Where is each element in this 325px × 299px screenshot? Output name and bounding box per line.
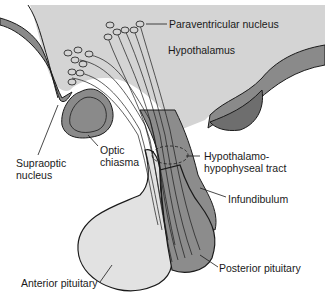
supraoptic-label-line1: Supraoptic — [16, 157, 66, 169]
paraventricular-nucleus-label: Paraventricular nucleus — [169, 18, 279, 30]
optic-chiasma-label-line2: chiasma — [100, 156, 139, 168]
supraoptic-label-line2: nucleus — [16, 169, 52, 181]
tract-label-line1: Hypothalamo- — [204, 150, 269, 162]
hypothalamus-label: Hypothalamus — [168, 44, 235, 56]
posterior-pituitary-label: Posterior pituitary — [219, 262, 301, 274]
infundibulum-label: Infundibulum — [228, 193, 288, 205]
optic-chiasma-label-line1: Optic — [100, 144, 125, 156]
hypothalamus-pituitary-diagram: Paraventricular nucleus Hypothalamus Sup… — [0, 0, 325, 299]
diagram-illustration — [0, 0, 325, 299]
anterior-pituitary-label: Anterior pituitary — [21, 277, 97, 289]
tract-label-line2: hypophyseal tract — [204, 162, 286, 174]
